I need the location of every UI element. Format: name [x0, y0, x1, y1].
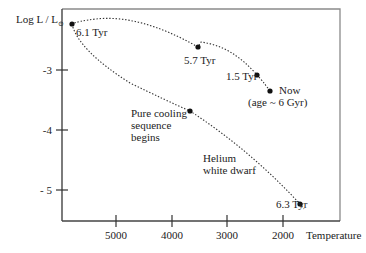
annotation-helium-line2: white dwarf — [203, 164, 256, 176]
x-tick-label: 3000 — [216, 229, 239, 241]
annotation-cooling-line2: sequence — [131, 119, 171, 131]
annotation-helium-line1: Helium — [203, 152, 236, 164]
y-axis-label: Log L / L⊙ — [16, 13, 64, 28]
annotation-cooling-line1: Pure cooling — [131, 107, 187, 119]
annotation-cooling-line3: begins — [131, 131, 160, 143]
point-now — [267, 88, 272, 93]
label-6.1-tyr: 6.1 Tyr — [76, 26, 108, 38]
hr-diagram: -3 -4 - 5 5000 4000 3000 2000 Log L / L⊙… — [0, 0, 366, 253]
point-6.1-tyr — [69, 21, 74, 26]
track-now-to-5.7 — [198, 42, 270, 91]
label-6.3-tyr: 6.3 Tyr — [276, 198, 308, 210]
y-tick-label: -3 — [43, 64, 53, 76]
label-1.5-tyr: 1.5 Tyr — [226, 70, 258, 82]
x-tick-label: 5000 — [105, 229, 128, 241]
plot-frame — [62, 9, 340, 221]
label-now: Now — [279, 84, 300, 96]
label-now-age: (age ~ 6 Gyr) — [248, 96, 308, 109]
y-tick-label: -4 — [43, 124, 53, 136]
y-tick-label: - 5 — [40, 184, 52, 196]
x-tick-label: 2000 — [272, 229, 295, 241]
x-axis-label: Temperature — [306, 229, 362, 241]
point-cooling-begins — [187, 108, 192, 113]
point-5.7-tyr — [195, 44, 200, 49]
track-6.1-to-6.3 — [72, 24, 304, 209]
x-tick-label: 4000 — [161, 229, 184, 241]
label-5.7-tyr: 5.7 Tyr — [184, 54, 216, 66]
